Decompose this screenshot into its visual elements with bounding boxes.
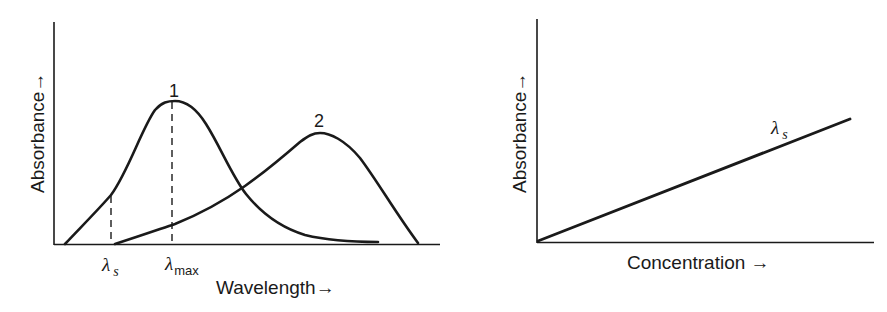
curve-2 [115, 133, 418, 244]
curve-2-label: 2 [314, 111, 324, 131]
lambda-symbol: λ [101, 254, 110, 275]
left-x-axis-title: Wavelength→ [216, 277, 335, 298]
left-y-axis-title: Absorbance→ [27, 73, 48, 193]
lambda-max-label: λmax [164, 253, 199, 278]
left-plot: 1 2 λs λmax Wavelength→ Absorbance→ [27, 22, 440, 298]
curve-1 [65, 101, 378, 244]
lambda-s-subscript: s [782, 127, 788, 142]
line-lambda-s-label: λs [770, 117, 788, 142]
figure-canvas: 1 2 λs λmax Wavelength→ Absorbance→ λs C… [0, 0, 887, 312]
lambda-symbol: λ [164, 253, 173, 274]
absorbance-vs-concentration-line [538, 119, 850, 241]
right-y-axis-title: Absorbance→ [509, 73, 530, 193]
curve-1-label: 1 [169, 81, 179, 101]
right-x-axis-title: Concentration → [627, 252, 770, 273]
lambda-max-subscript: max [174, 263, 199, 278]
lambda-s-subscript: s [113, 264, 119, 279]
lambda-s-label: λs [101, 254, 119, 279]
lambda-symbol: λ [770, 117, 779, 138]
right-plot: λs Concentration → Absorbance→ [509, 19, 874, 273]
